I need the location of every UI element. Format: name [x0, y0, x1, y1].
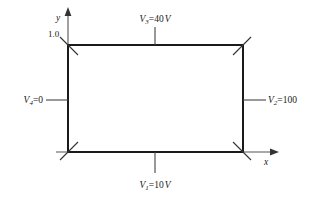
boundary-left-unit	[43, 95, 44, 105]
boundary-label-top: V3=40V	[140, 15, 171, 26]
boundary-label-bottom: V1=10V	[140, 181, 171, 192]
boundary-left-value: =0	[33, 95, 43, 105]
y-axis-tick-label: 1.0	[48, 30, 59, 39]
y-axis-arrowhead	[65, 7, 72, 16]
boundary-top-value: =40	[149, 14, 164, 24]
x-axis-arrowhead	[270, 149, 279, 156]
figure-canvas	[0, 0, 311, 206]
boundary-label-left: V4=0	[24, 96, 44, 107]
boundary-bottom-unit: V	[164, 180, 171, 190]
y-axis-label: y	[56, 14, 60, 24]
boundary-label-right: V2=100	[268, 96, 298, 107]
boundary-right-value: =100	[277, 95, 297, 105]
boundary-top-unit: V	[164, 14, 171, 24]
boundary-bottom-value: =10	[149, 180, 164, 190]
x-axis-label: x	[264, 158, 268, 168]
boundary-right-unit	[297, 95, 298, 105]
domain-rectangle	[68, 45, 243, 152]
boundary-value-figure: V3=40V V1=10V V4=0 V2=100 y x 1.0	[0, 0, 311, 206]
